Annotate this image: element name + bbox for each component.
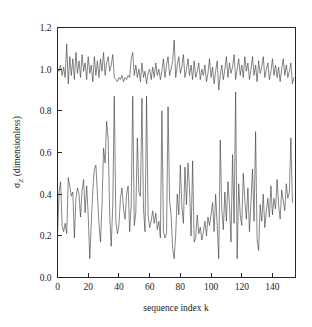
y-axis-tick-labels: 0.00.20.40.60.81.01.2	[40, 23, 52, 283]
y-axis-title: σZ (dimensionless)	[12, 116, 25, 188]
y-tick-label: 0.4	[40, 190, 52, 200]
figure-container: 020406080100120140 0.00.20.40.60.81.01.2…	[0, 0, 312, 327]
x-tick-label: 60	[145, 282, 155, 292]
y-tick-label: 0.0	[40, 273, 52, 283]
y-tick-label: 1.0	[40, 65, 52, 75]
x-tick-label: 40	[114, 282, 124, 292]
x-axis-tick-labels: 020406080100120140	[55, 282, 280, 292]
x-axis-title: sequence index k	[143, 303, 209, 313]
x-tick-label: 140	[265, 282, 280, 292]
y-axis-title-rest: (dimensionless)	[12, 116, 23, 179]
series-line-1	[58, 40, 294, 90]
svg-text:σZ (dimensionless): σZ (dimensionless)	[12, 116, 25, 188]
line-chart: 020406080100120140 0.00.20.40.60.81.01.2…	[0, 0, 312, 327]
y-tick-label: 0.2	[40, 231, 52, 241]
x-tick-label: 120	[235, 282, 250, 292]
series-line-2	[58, 92, 293, 259]
x-tick-label: 80	[176, 282, 186, 292]
plot-frame	[58, 28, 296, 278]
x-tick-label: 20	[83, 282, 93, 292]
data-series-group	[58, 40, 294, 259]
y-tick-label: 0.6	[40, 148, 52, 158]
x-tick-label: 100	[204, 282, 219, 292]
y-tick-label: 0.8	[40, 106, 52, 116]
y-axis-ticks	[58, 28, 63, 278]
y-tick-label: 1.2	[40, 23, 52, 33]
x-axis-ticks	[58, 273, 273, 278]
x-tick-label: 0	[55, 282, 60, 292]
